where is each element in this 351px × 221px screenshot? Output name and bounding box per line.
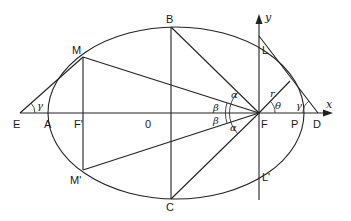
label-l-prime: L'	[262, 171, 270, 183]
label-p: P	[291, 118, 298, 130]
label-m-prime: M'	[70, 174, 81, 186]
tangent-e-m	[20, 57, 83, 113]
label-e: E	[13, 118, 20, 130]
label-gamma-left: γ	[37, 100, 43, 111]
label-o: 0	[145, 118, 151, 130]
label-f-prime: F'	[74, 118, 83, 130]
label-gamma-right: γ	[296, 100, 302, 111]
label-beta-bottom: β	[212, 115, 219, 126]
ellipse-diagram: E A F' 0 F P D B C M M' L L' x y γ γ θ r…	[0, 0, 351, 221]
label-x-axis: x	[326, 98, 333, 111]
label-b: B	[166, 13, 173, 25]
label-y-axis: y	[264, 11, 272, 24]
label-d: D	[313, 118, 321, 130]
label-theta: θ	[275, 100, 281, 111]
arc-gamma-left	[31, 103, 35, 113]
label-r: r	[270, 88, 276, 99]
label-beta-top: β	[212, 102, 219, 113]
label-f: F	[261, 118, 268, 130]
label-l: L	[262, 44, 268, 56]
label-alpha-bottom: α	[230, 122, 237, 133]
label-c: C	[166, 201, 174, 213]
line-b-f	[171, 27, 259, 113]
label-alpha-top: α	[231, 89, 238, 100]
y-axis-arrow-icon	[256, 14, 263, 24]
label-m: M	[72, 44, 81, 56]
label-a: A	[44, 118, 52, 130]
